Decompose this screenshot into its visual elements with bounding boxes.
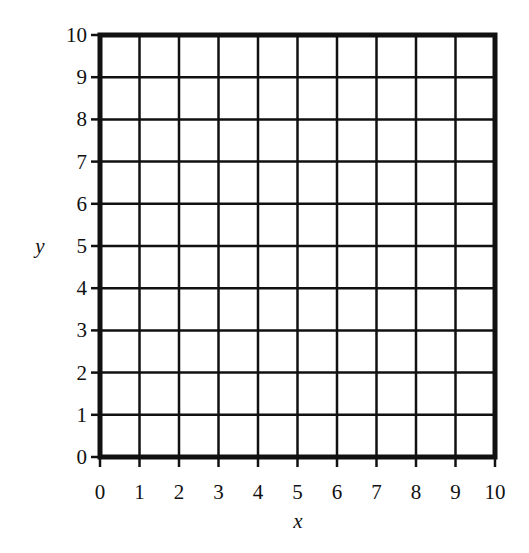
coordinate-grid-chart: 012345678910 012345678910 x y (0, 0, 529, 553)
y-tick-label: 0 (77, 445, 88, 469)
y-axis-label: y (33, 234, 45, 258)
x-tick-label: 8 (411, 480, 422, 504)
x-tick-label: 0 (95, 480, 106, 504)
axis-ticks (91, 35, 495, 467)
y-tick-label: 2 (77, 361, 88, 385)
y-tick-label: 4 (77, 276, 88, 300)
x-tick-label: 5 (292, 480, 303, 504)
x-tick-label: 7 (371, 480, 382, 504)
x-tick-label: 1 (134, 480, 145, 504)
x-tick-labels: 012345678910 (95, 480, 506, 504)
grid-lines (100, 35, 495, 457)
y-tick-label: 5 (77, 234, 88, 258)
x-tick-label: 2 (174, 480, 185, 504)
x-tick-label: 3 (213, 480, 224, 504)
y-tick-labels: 012345678910 (66, 23, 88, 469)
y-tick-label: 7 (77, 150, 88, 174)
x-tick-label: 4 (253, 480, 264, 504)
y-tick-label: 9 (77, 65, 88, 89)
y-tick-label: 10 (66, 23, 87, 47)
y-tick-label: 3 (77, 318, 88, 342)
x-axis-label: x (292, 509, 303, 533)
y-tick-label: 6 (77, 192, 88, 216)
y-tick-label: 8 (77, 107, 88, 131)
x-tick-label: 6 (332, 480, 343, 504)
x-tick-label: 10 (485, 480, 506, 504)
y-tick-label: 1 (77, 403, 88, 427)
x-tick-label: 9 (450, 480, 461, 504)
